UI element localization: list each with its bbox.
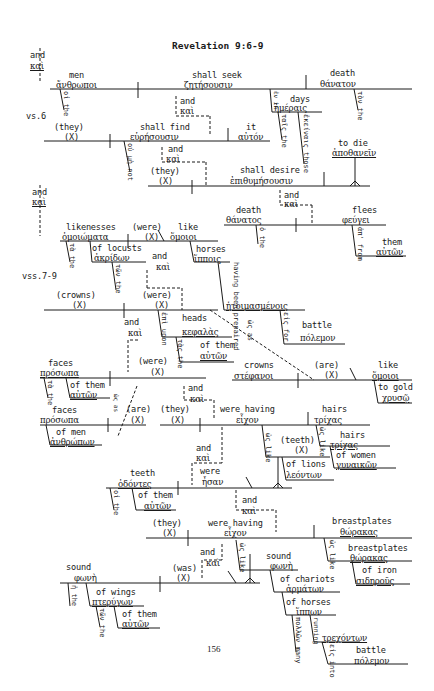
sound-gr: φωνὴ: [270, 561, 293, 571]
comparison-like: ὡς like: [238, 543, 246, 573]
genitive-them-en: of them: [138, 490, 173, 500]
conj-and: and: [168, 144, 183, 154]
subject-x: (X): [162, 528, 177, 538]
verb-were-having-en: were having: [220, 404, 275, 414]
subject-teeth-en: teeth: [130, 468, 155, 478]
subject-teeth-gr: ὀδόντες: [118, 479, 151, 489]
page-number: 156: [207, 644, 221, 654]
them-gr: αὐτῶν: [376, 247, 403, 257]
predicate-like-gr: ὅμοιοι: [170, 232, 197, 242]
subject-x: (X): [64, 132, 79, 142]
object-hairs-en: hairs: [322, 404, 347, 414]
conj-and: and: [32, 187, 47, 197]
subject-death-gr: θάνατος: [226, 215, 261, 225]
verb-were: (were): [132, 222, 162, 232]
conj-and: and: [242, 495, 257, 505]
genitive-them-en: of them: [200, 340, 235, 350]
subject-men-en: men: [69, 70, 84, 80]
genitive-them-en: of them: [70, 380, 105, 390]
breastplates-en: breastplates: [348, 543, 408, 553]
verb-were-having-gr: εἶχον: [236, 415, 258, 425]
verb-were-having-gr: εἶχον: [224, 528, 246, 538]
subject-sound-en: sound: [66, 562, 91, 572]
participle-running-gr: τρεχόντων: [322, 633, 367, 643]
genitive-locusts-gr: ἀκρίδων: [94, 253, 130, 263]
genitive-women-gr: γυναικῶν: [336, 460, 377, 470]
predicate-like-en: like: [178, 222, 198, 232]
subject-faces-gr: πρόσωπα: [40, 415, 79, 425]
genitive-lions-gr: λεόντων: [286, 470, 322, 480]
article-the: τὰ the: [68, 243, 76, 268]
dative-gold-en: to gold: [378, 382, 413, 392]
genitive-them-gr: αὐτῶν: [122, 619, 149, 629]
article-the: ταῖς the: [280, 114, 288, 148]
sound-en: sound: [266, 551, 291, 561]
conj-kai: καὶ: [156, 262, 170, 272]
verb-flees-en: flees: [352, 205, 377, 215]
genitive-men-gr: ἀνθρώπων: [50, 437, 95, 447]
battle-en: battle: [302, 320, 332, 330]
subject-crowns-en: crowns: [244, 360, 274, 370]
verb-x: (X): [154, 300, 169, 310]
verb-was: (was): [172, 563, 197, 573]
verb-flees-gr: φεύγει: [342, 215, 369, 225]
verb-x: (X): [150, 367, 165, 377]
teeth-implied-x: (X): [294, 445, 309, 455]
prep-for: εἰς for: [282, 312, 290, 342]
genitive-chariots-en: of chariots: [280, 574, 335, 584]
genitive-women-en: of women: [336, 450, 376, 460]
subject-x: (X): [72, 300, 87, 310]
hairs-gr: τρίχας: [330, 440, 358, 450]
dative-gold-gr: χρυσῷ: [382, 393, 409, 403]
verb-x: (X): [176, 573, 191, 583]
subject-they: (they): [152, 518, 182, 528]
prep-from: ἀπ' from: [356, 227, 364, 261]
verb-x: (X): [144, 232, 159, 242]
verb-are: (are): [126, 404, 151, 414]
negation-not: οὐ μὴ not: [126, 143, 134, 181]
verb-were: (were): [142, 290, 172, 300]
article-the: ὁ the: [258, 227, 266, 248]
subject-death-en: death: [236, 205, 261, 215]
subject-x: (X): [170, 415, 185, 425]
object-death-en: death: [330, 68, 355, 78]
article-the: τὰ the: [46, 380, 54, 405]
modifier-iron-en: of iron: [362, 565, 397, 575]
object-it-en: it: [246, 122, 256, 132]
object-horses-en: horses: [196, 244, 226, 254]
participle-running-en: running: [312, 617, 320, 644]
genitive-horses-en: of horses: [286, 597, 331, 607]
genitive-them-gr: αὐτῶν: [200, 351, 227, 361]
battle-gr: πόλεμον: [300, 333, 335, 343]
comparison-like: ὡς like: [328, 540, 336, 570]
article-the: οἱ the: [62, 91, 70, 116]
hairs-en: hairs: [340, 430, 365, 440]
verse-label-vss7-9: vss.7-9: [22, 271, 57, 281]
them-en: them: [382, 237, 402, 247]
subject-they: (they): [150, 166, 180, 176]
days-gr: ἡμέραις: [274, 103, 307, 113]
predicate-like-gr: ὅμοιοι: [372, 371, 399, 381]
subject-they: (they): [160, 404, 190, 414]
genitive-horses-gr: ἵππων: [296, 607, 322, 617]
subject-sound-gr: φωνὴ: [74, 573, 97, 583]
genitive-them-gr: αὐτῶν: [70, 390, 97, 400]
genitive-wings-en: of wings: [96, 587, 136, 597]
verb-shall-find-gr: εὑρήσουσιν: [130, 132, 179, 142]
subject-crowns-implied: (crowns): [56, 290, 96, 300]
conj-kai: καὶ: [32, 197, 46, 207]
object-breastplates-gr: θώρακας: [340, 527, 378, 537]
subject-likenesses-en: likenesses: [66, 222, 116, 232]
comparison-as: ὡς as: [246, 320, 254, 341]
verb-x: (X): [130, 415, 145, 425]
verb-shall-desire-en: shall desire: [240, 165, 300, 175]
verb-shall-seek-en: shall seek: [192, 70, 242, 80]
subject-x: (X): [158, 176, 173, 186]
verb-shall-find-en: shall find: [140, 122, 190, 132]
prep-into: εἰς into: [328, 644, 336, 678]
article-the: ἡ the: [70, 585, 78, 606]
conj-and: and: [124, 317, 139, 327]
teeth-implied-en: (teeth): [280, 435, 315, 445]
conj-and: and: [200, 547, 215, 557]
conj-kai: καὶ: [166, 154, 180, 164]
